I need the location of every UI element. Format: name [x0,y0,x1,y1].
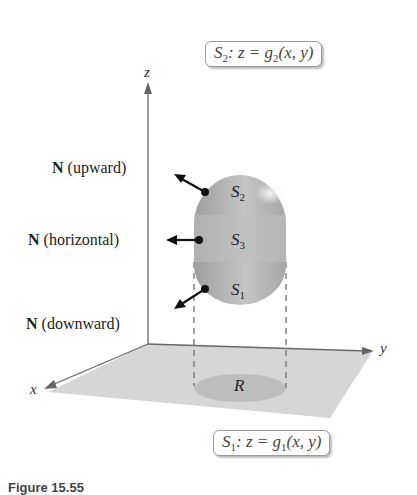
equation-args: (x, y) [287,432,322,451]
normal-downward-arrow [180,289,205,305]
arrowhead-icon [166,235,177,245]
point-dot [201,285,209,293]
equation-args: (x, y) [279,43,314,62]
axis-label-z: z [144,64,150,81]
z-axis-arrow-icon [144,82,152,94]
surface-symbol: S [231,280,240,299]
normal-direction: (upward) [64,159,127,176]
subscript: 1 [240,289,246,301]
point-dot [195,236,203,244]
subscript: 2 [240,191,246,203]
axis-label-x: x [30,381,37,398]
axis-label-y: y [380,340,387,357]
equation-text: : z = g [228,43,273,62]
normal-symbol: N [28,231,40,248]
normal-symbol: N [26,315,38,332]
surface-symbol: S [222,432,231,451]
label-s3: S3 [231,230,245,251]
region-label: R [234,376,244,396]
subscript: 3 [240,239,246,251]
surface-symbol: S [231,230,240,249]
arrowhead-icon [174,174,186,183]
figure-caption: Figure 15.55 [8,480,84,495]
point-dot [201,188,209,196]
equation-box-s2: S2: z = g2(x, y) [205,41,322,67]
label-s1: S1 [231,280,245,301]
x-axis-arrow-icon [44,380,57,389]
normal-direction: (downward) [38,315,120,332]
label-normal-horizontal: N (horizontal) [28,231,119,249]
arrowhead-icon [174,299,186,309]
surface-symbol: S [214,43,223,62]
surface-symbol: S [231,182,240,201]
normal-symbol: N [52,159,64,176]
normal-direction: (horizontal) [40,231,120,248]
label-normal-downward: N (downward) [26,315,120,333]
equation-box-s1: S1: z = g1(x, y) [213,430,330,456]
equation-text: : z = g [236,432,281,451]
label-normal-upward: N (upward) [52,159,126,177]
normal-upward-arrow [180,178,205,192]
label-s2: S2 [231,182,245,203]
